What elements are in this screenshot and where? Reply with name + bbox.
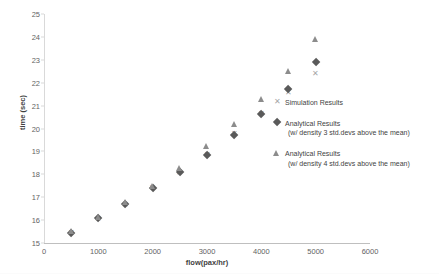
y-axis-title: time (sec): [18, 83, 27, 143]
y-axis-tick-mark: [41, 82, 44, 83]
legend-entry-simulation: ✕ Simulation Results: [274, 98, 439, 108]
y-axis-tick-label: 15: [32, 239, 40, 248]
x-axis-tick-label: 0: [42, 247, 46, 256]
legend-label: Analytical Results: [285, 149, 340, 159]
chart-legend: ✕ Simulation Results Analytical Results …: [274, 98, 439, 180]
y-axis-tick-label: 22: [32, 78, 40, 87]
legend-sublabel: (w/ density 4 std.devs above the mean): [288, 159, 439, 169]
x-axis-line: [44, 243, 370, 244]
y-axis-tick-mark: [41, 174, 44, 175]
x-axis-tick-label: 1000: [90, 247, 107, 256]
y-axis-tick-label: 20: [32, 124, 40, 133]
x-axis-tick-label: 4000: [253, 247, 270, 256]
data-point-cross: ✕: [122, 201, 129, 209]
y-axis-tick-mark: [41, 220, 44, 221]
y-axis-tick-label: 21: [32, 101, 40, 110]
data-point-cross: ✕: [285, 89, 292, 97]
x-axis-title: flow(pax/hr): [44, 258, 370, 267]
y-axis-tick-mark: [41, 105, 44, 106]
legend-entry-analytical-3sd: Analytical Results (w/ density 3 std.dev…: [274, 119, 439, 139]
data-point-cross: ✕: [258, 110, 265, 118]
data-point-cross: ✕: [176, 169, 183, 177]
y-axis-tick-label: 19: [32, 147, 40, 156]
y-axis-tick-label: 17: [32, 193, 40, 202]
x-axis-tick-label: 5000: [307, 247, 324, 256]
y-axis-tick-mark: [41, 36, 44, 37]
cross-marker-icon: ✕: [274, 98, 285, 107]
data-point-cross: ✕: [149, 184, 156, 192]
data-point-cross: ✕: [204, 151, 211, 159]
y-axis-tick-mark: [41, 243, 44, 244]
x-axis-tick-label: 6000: [362, 247, 379, 256]
scatter-chart: 1516171819202122232425010002000300040005…: [0, 0, 439, 274]
data-point-cross: ✕: [95, 215, 102, 223]
y-axis-tick-mark: [41, 14, 44, 15]
data-point-cross: ✕: [231, 130, 238, 138]
diamond-marker-icon: [274, 119, 285, 128]
y-axis-tick-mark: [41, 151, 44, 152]
legend-sublabel: (w/ density 3 std.devs above the mean): [288, 128, 439, 138]
y-axis-tick-mark: [41, 197, 44, 198]
y-axis-tick-label: 23: [32, 55, 40, 64]
data-point-cross: ✕: [312, 70, 319, 78]
y-axis-tick-label: 24: [32, 32, 40, 41]
legend-label: Simulation Results: [285, 98, 343, 108]
y-axis-tick-label: 18: [32, 170, 40, 179]
triangle-marker-icon: [274, 149, 285, 158]
x-axis-tick-label: 2000: [144, 247, 161, 256]
data-point-cross: ✕: [68, 229, 75, 237]
y-axis-tick-label: 16: [32, 216, 40, 225]
y-axis-tick-label: 25: [32, 10, 40, 19]
y-axis-tick-mark: [41, 128, 44, 129]
legend-entry-analytical-4sd: Analytical Results (w/ density 4 std.dev…: [274, 149, 439, 169]
legend-label: Analytical Results: [285, 119, 340, 129]
x-axis-tick-label: 3000: [199, 247, 216, 256]
y-axis-tick-mark: [41, 59, 44, 60]
